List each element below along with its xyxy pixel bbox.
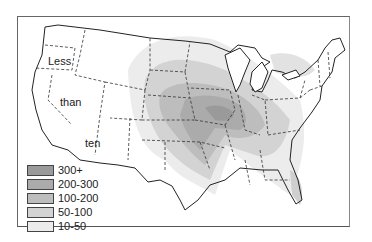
label-than: than <box>60 96 81 108</box>
legend-label: 10-50 <box>58 221 86 232</box>
legend-swatch <box>27 193 54 204</box>
legend-label: 200-300 <box>58 179 98 190</box>
legend-item-300-plus: 300+ <box>27 163 98 177</box>
legend-label: 100-200 <box>58 193 98 204</box>
legend-item-200-300: 200-300 <box>27 177 98 191</box>
legend-swatch <box>27 221 54 232</box>
label-ten: ten <box>85 137 100 149</box>
legend-swatch <box>27 179 54 190</box>
legend-label: 50-100 <box>58 207 92 218</box>
legend: 300+ 200-300 100-200 50-100 10-50 <box>27 163 98 233</box>
legend-swatch <box>27 207 54 218</box>
legend-item-50-100: 50-100 <box>27 205 98 219</box>
label-less: Less <box>48 55 71 67</box>
legend-label: 300+ <box>58 165 83 176</box>
legend-swatch <box>27 165 54 176</box>
legend-item-100-200: 100-200 <box>27 191 98 205</box>
legend-item-10-50: 10-50 <box>27 219 98 233</box>
